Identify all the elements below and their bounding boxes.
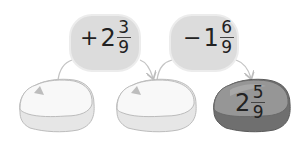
operation-2-expression: − 1 6 9 <box>183 19 234 56</box>
stone-3-numerator: 5 <box>253 84 264 101</box>
operation-1-expression: + 2 3 9 <box>80 19 131 56</box>
stone-3-denominator: 9 <box>253 104 264 121</box>
operation-1-sign: + <box>80 27 98 49</box>
stone-3-label: 2 5 9 <box>235 84 265 121</box>
operation-1-fraction: 3 9 <box>117 19 131 56</box>
operation-1-numerator: 3 <box>118 19 129 36</box>
mixed-number-operation-diagram: + 2 3 9 − 1 6 9 2 5 9 <box>0 0 308 148</box>
diagram-artwork <box>0 0 308 148</box>
operation-2-denominator: 9 <box>221 39 232 56</box>
operation-2-sign: − <box>183 27 201 49</box>
stone-2 <box>117 79 197 131</box>
stone-3-whole: 2 <box>235 91 250 115</box>
operation-2-fraction: 6 9 <box>220 19 234 56</box>
operation-1-denominator: 9 <box>118 39 129 56</box>
stone-1 <box>20 79 95 131</box>
operation-1-whole: 2 <box>100 26 115 50</box>
stone-3-fraction: 5 9 <box>251 84 265 121</box>
operation-2-numerator: 6 <box>221 19 232 36</box>
operation-2-whole: 1 <box>203 26 218 50</box>
